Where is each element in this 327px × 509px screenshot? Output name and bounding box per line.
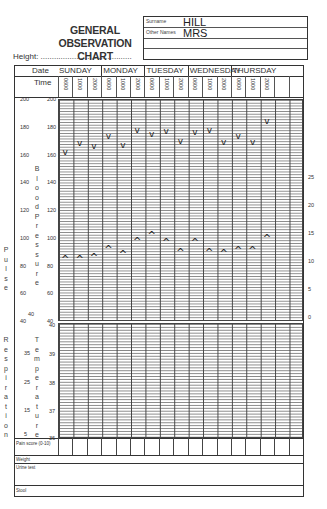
height-field[interactable]: Height: ................................…: [13, 52, 132, 61]
systolic-marker: v: [63, 147, 68, 156]
time-label: 1000: [250, 78, 256, 90]
systolic-marker: v: [120, 140, 125, 149]
id-blank-row-1[interactable]: [144, 39, 307, 49]
pain-score-cell[interactable]: [217, 438, 231, 455]
time-column: 1000: [202, 76, 216, 97]
time-column: 1000: [72, 76, 86, 97]
diastolic-marker: ^: [119, 250, 127, 259]
time-column: 0600: [188, 76, 202, 97]
diastolic-marker: ^: [75, 254, 83, 263]
time-label: 1000: [77, 78, 83, 90]
diastolic-marker: ^: [90, 253, 98, 262]
time-column: 2000: [87, 76, 101, 97]
time-label: 2000: [264, 78, 270, 90]
other-names-label: Other Names: [146, 29, 176, 35]
weight-label: Weight: [16, 457, 30, 462]
diastolic-marker: ^: [220, 249, 228, 258]
temperature-axis-label: Temperature: [33, 335, 41, 440]
temperature-tick: 40: [49, 322, 55, 328]
bp-tick: 180: [47, 124, 56, 130]
time-label: Time: [34, 78, 51, 87]
day-separator: [188, 66, 189, 76]
pain-score-cell[interactable]: [173, 438, 187, 455]
time-column: 1000: [245, 76, 259, 97]
pain-score-cell[interactable]: [231, 438, 245, 455]
pulse-axis-label: Pulse: [2, 245, 10, 293]
bp-tick: 160: [47, 152, 56, 158]
pulse-tick: 200: [20, 96, 29, 102]
time-column: 1000: [116, 76, 130, 97]
pain-score-cell[interactable]: [260, 438, 274, 455]
resp-temp-grid[interactable]: [58, 323, 303, 438]
time-column: 0600: [101, 76, 115, 97]
stool-label: Stool: [16, 488, 26, 493]
divider: [14, 97, 304, 98]
pain-score-cell[interactable]: [72, 438, 86, 455]
bp-tick: 120: [47, 207, 56, 213]
date-label: Date: [32, 65, 49, 76]
respiration-tick: 35: [24, 350, 30, 356]
day-separator: [231, 66, 232, 76]
surname-label: Surname: [146, 18, 166, 24]
diastolic-marker: ^: [191, 237, 199, 246]
other-names-value[interactable]: MRS: [183, 27, 207, 39]
systolic-marker: v: [192, 128, 197, 137]
pain-score-cell[interactable]: [144, 438, 158, 455]
pain-score-cell[interactable]: [188, 438, 202, 455]
right-axis-tick: 25: [308, 174, 314, 180]
diastolic-marker: ^: [162, 237, 170, 246]
diastolic-marker: ^: [133, 236, 141, 245]
bp-tick: 80: [47, 263, 53, 269]
pulse-tick: 100: [20, 235, 29, 241]
time-column: 2000: [173, 76, 187, 97]
time-label: 1000: [120, 78, 126, 90]
pulse-tick: 180: [20, 124, 29, 130]
time-column: 2000: [260, 76, 274, 97]
diastolic-marker: ^: [205, 247, 213, 256]
pain-score-cell[interactable]: [245, 438, 259, 455]
time-column: 0600: [231, 76, 245, 97]
systolic-marker: v: [91, 142, 96, 151]
systolic-marker: v: [149, 129, 154, 138]
time-label: 2000: [135, 78, 141, 90]
patient-id-box: Surname HILL Other Names MRS: [143, 16, 308, 60]
pain-score-cell[interactable]: [87, 438, 101, 455]
pulse-tick: 160: [20, 152, 29, 158]
diastolic-marker: ^: [263, 233, 271, 242]
pain-score-cell[interactable]: [289, 438, 303, 455]
urine-test-field[interactable]: [58, 463, 303, 485]
bp-axis-label: BloodPressure: [33, 164, 41, 288]
weight-field[interactable]: [58, 455, 303, 463]
pain-score-cell[interactable]: [159, 438, 173, 455]
other-names-row: Other Names MRS: [144, 28, 307, 39]
systolic-marker: v: [163, 126, 168, 135]
diastolic-marker: ^: [234, 246, 242, 255]
stool-field[interactable]: [58, 485, 303, 497]
diastolic-marker: ^: [147, 230, 155, 239]
bp-pulse-grid[interactable]: [58, 99, 303, 321]
pain-score-cell[interactable]: [101, 438, 115, 455]
pain-score-cell[interactable]: [58, 438, 72, 455]
surname-row: Surname HILL: [144, 17, 307, 28]
systolic-marker: v: [250, 138, 255, 147]
pain-score-cell[interactable]: [274, 438, 288, 455]
time-column: 2000: [130, 76, 144, 97]
bp-tick: 100: [47, 235, 56, 241]
bp-tick: 140: [47, 179, 56, 185]
pain-score-cell[interactable]: [130, 438, 144, 455]
systolic-marker: v: [207, 125, 212, 134]
time-column: 2000: [217, 76, 231, 97]
bp-tick: 60: [47, 290, 53, 296]
day-header-thursday: THURSDAY: [233, 65, 276, 76]
time-label: 1000: [164, 78, 170, 90]
pain-score-cell[interactable]: [116, 438, 130, 455]
time-label: 2000: [92, 78, 98, 90]
respiration-tick: 15: [24, 407, 30, 413]
id-blank-row-2[interactable]: [144, 49, 307, 59]
diastolic-marker: ^: [61, 254, 69, 263]
pain-score-cell[interactable]: [202, 438, 216, 455]
time-label: 2000: [178, 78, 184, 90]
respiration-tick: 40: [28, 311, 34, 317]
time-label: 0600: [63, 78, 69, 90]
diastolic-marker: ^: [176, 247, 184, 256]
